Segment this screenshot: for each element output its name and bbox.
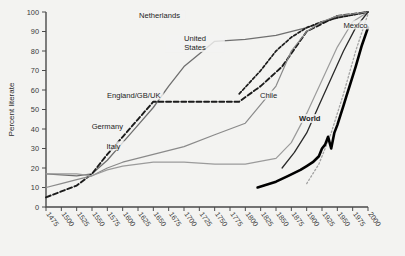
y-tick-label: 40: [31, 125, 39, 134]
x-tick-label: 1975: [351, 210, 368, 228]
series-label-world: World: [299, 114, 321, 123]
x-tick-label: 1500: [60, 210, 77, 228]
y-axis-title: Percent literate: [7, 82, 16, 136]
series-label-england-gb-uk: England/GB/UK: [107, 91, 161, 100]
y-tick-label: 60: [31, 86, 39, 95]
x-tick-label: 2000: [366, 210, 383, 228]
series-label-germany: Germany: [92, 122, 123, 131]
y-tick-label: 100: [27, 8, 39, 17]
y-tick-label: 80: [31, 47, 39, 56]
y-tick-label: 0: [35, 203, 39, 212]
y-tick-label: 10: [31, 183, 39, 192]
x-tick-label: 1600: [121, 210, 138, 228]
x-tick-label: 1875: [290, 210, 307, 228]
x-tick-label: 1900: [305, 210, 322, 228]
x-tick-label: 1800: [244, 210, 261, 228]
literacy-line-chart: 0102030405060708090100147515001525155015…: [0, 0, 405, 256]
series-label-united-states: UnitedStates: [184, 34, 206, 52]
x-tick-label: 1825: [259, 210, 276, 228]
x-tick-label: 1675: [167, 210, 184, 228]
x-tick-label: 1550: [90, 210, 107, 228]
y-tick-label: 20: [31, 164, 39, 173]
x-tick-label: 1650: [152, 210, 169, 228]
y-tick-label: 90: [31, 27, 39, 36]
x-tick-label: 1950: [336, 210, 353, 228]
series-label-mexico: Mexico: [343, 21, 367, 30]
y-tick-label: 70: [31, 66, 39, 75]
y-tick-label: 50: [31, 105, 39, 114]
series-label-netherlands: Netherlands: [139, 11, 180, 20]
x-tick-label: 1700: [182, 210, 199, 228]
y-tick-label: 30: [31, 144, 39, 153]
x-tick-label: 1625: [136, 210, 153, 228]
series-line-world: [258, 28, 368, 188]
series-label-chile: Chile: [260, 91, 277, 100]
x-tick-label: 1725: [198, 210, 215, 228]
x-tick-label: 1475: [44, 210, 61, 228]
series-label-italy: Italy: [106, 142, 120, 151]
x-tick-label: 1925: [320, 210, 337, 228]
x-tick-label: 1850: [274, 210, 291, 228]
x-tick-label: 1750: [213, 210, 230, 228]
series-labels: NetherlandsEngland/GB/UKUnitedStatesGerm…: [90, 11, 372, 151]
x-tick-label: 1525: [75, 210, 92, 228]
x-tick-label: 1775: [228, 210, 245, 228]
x-tick-label: 1575: [106, 210, 123, 228]
chart-canvas: 0102030405060708090100147515001525155015…: [0, 0, 405, 256]
